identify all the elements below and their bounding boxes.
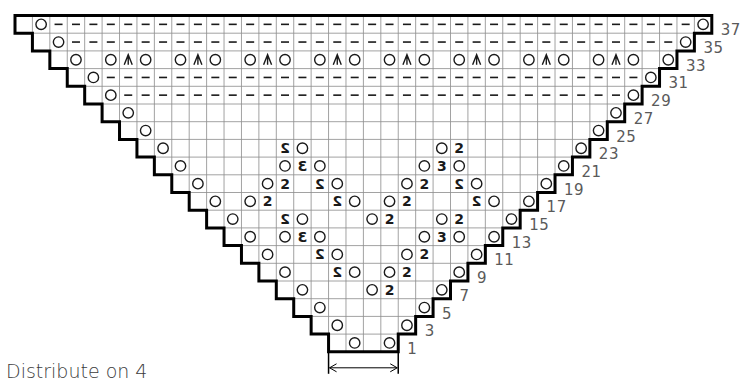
yarn-over-icon: [280, 55, 290, 65]
yarn-over-icon: [593, 125, 603, 135]
yarn-over-icon: [245, 196, 255, 206]
yarn-over-icon: [175, 161, 185, 171]
yarn-over-icon: [349, 55, 359, 65]
decrease-2-icon: 2: [419, 176, 429, 192]
mirrored-decrease-3-icon: 3: [298, 229, 308, 245]
row-number-label: 27: [634, 112, 654, 127]
yarn-over-icon: [628, 55, 638, 65]
mirrored-decrease-2-icon: 2: [280, 211, 290, 227]
row-number-label: 9: [477, 271, 487, 286]
row-number-label: 25: [616, 130, 636, 145]
row-number-label: 5: [442, 307, 452, 322]
repeat-arrow: [329, 352, 399, 374]
chart-row-11: 22: [262, 246, 481, 262]
row-number-label: 31: [669, 76, 689, 91]
yarn-over-icon: [245, 232, 255, 242]
yarn-over-icon: [332, 249, 342, 259]
yarn-over-icon: [36, 19, 46, 29]
decrease-3-icon: 3: [437, 229, 447, 245]
yarn-over-icon: [158, 143, 168, 153]
grid-lines: [15, 16, 712, 352]
decrease-2-icon: 2: [385, 211, 395, 227]
yarn-over-icon: [384, 338, 394, 348]
chart-row-33: [71, 55, 674, 65]
yarn-over-icon: [280, 267, 290, 277]
chart-row-27: [123, 108, 621, 118]
decrease-2-icon: 2: [280, 176, 290, 192]
yarn-over-icon: [315, 232, 325, 242]
yarn-over-icon: [628, 90, 638, 100]
mirrored-decrease-3-icon: 3: [298, 158, 308, 174]
yarn-over-icon: [332, 320, 342, 330]
row-number-label: 7: [460, 289, 470, 304]
yarn-over-icon: [541, 178, 551, 188]
yarn-over-icon: [262, 249, 272, 259]
yarn-over-icon: [698, 19, 708, 29]
yarn-over-icon: [367, 214, 377, 224]
yarn-over-icon: [210, 196, 220, 206]
row-number-label: 17: [547, 200, 567, 215]
yarn-over-icon: [280, 232, 290, 242]
central-double-decrease-icon: [542, 55, 550, 65]
yarn-over-icon: [611, 108, 621, 118]
yarn-over-icon: [384, 267, 394, 277]
yarn-over-icon: [71, 55, 81, 65]
row-number-label: 35: [703, 41, 723, 56]
decrease-2-icon: 2: [263, 193, 273, 209]
row-number-label: 15: [529, 218, 549, 233]
yarn-over-icon: [262, 178, 272, 188]
central-double-decrease-icon: [264, 55, 272, 65]
yarn-over-icon: [175, 55, 185, 65]
chart-row-29: [106, 90, 639, 100]
yarn-over-icon: [402, 178, 412, 188]
yarn-over-icon: [454, 232, 464, 242]
yarn-over-icon: [419, 55, 429, 65]
yarn-over-icon: [454, 161, 464, 171]
central-double-decrease-icon: [403, 55, 411, 65]
row-number-label: 23: [599, 147, 619, 162]
yarn-over-icon: [297, 285, 307, 295]
decrease-3-icon: 3: [437, 158, 447, 174]
decrease-2-icon: 2: [385, 282, 395, 298]
yarn-over-icon: [419, 302, 429, 312]
caption-distribute: Distribute on 4: [6, 360, 147, 382]
yarn-over-icon: [559, 161, 569, 171]
yarn-over-icon: [349, 267, 359, 277]
chart-row-7: 2: [297, 282, 447, 298]
knitting-chart: 2233222222222223322222: [0, 0, 747, 392]
yarn-over-icon: [315, 302, 325, 312]
decrease-2-icon: 2: [454, 211, 464, 227]
chart-row-9: 22: [280, 264, 465, 280]
yarn-over-icon: [315, 161, 325, 171]
mirrored-decrease-2-icon: 2: [315, 176, 325, 192]
yarn-over-icon: [245, 55, 255, 65]
yarn-over-icon: [297, 214, 307, 224]
chart-row-31: [88, 72, 656, 82]
yarn-over-icon: [419, 161, 429, 171]
yarn-over-icon: [367, 285, 377, 295]
central-double-decrease-icon: [473, 55, 481, 65]
yarn-over-icon: [524, 196, 534, 206]
yarn-over-icon: [210, 55, 220, 65]
yarn-over-icon: [419, 232, 429, 242]
yarn-over-icon: [437, 214, 447, 224]
chart-row-25: [140, 125, 603, 135]
yarn-over-icon: [524, 55, 534, 65]
chart-row-3: [332, 320, 412, 330]
yarn-over-icon: [53, 37, 63, 47]
yarn-over-icon: [437, 143, 447, 153]
yarn-over-icon: [106, 55, 116, 65]
yarn-over-icon: [593, 55, 603, 65]
yarn-over-icon: [402, 249, 412, 259]
row-number-label: 19: [564, 183, 584, 198]
yarn-over-icon: [506, 214, 516, 224]
row-number-label: 33: [686, 59, 706, 74]
decrease-2-icon: 2: [402, 193, 412, 209]
decrease-2-icon: 2: [419, 246, 429, 262]
row-number-label: 1: [407, 342, 417, 357]
yarn-over-icon: [384, 196, 394, 206]
chart-row-13: 33: [245, 229, 499, 245]
chart-row-21: 33: [175, 158, 569, 174]
mirrored-decrease-2-icon: 2: [280, 140, 290, 156]
yarn-over-icon: [437, 285, 447, 295]
